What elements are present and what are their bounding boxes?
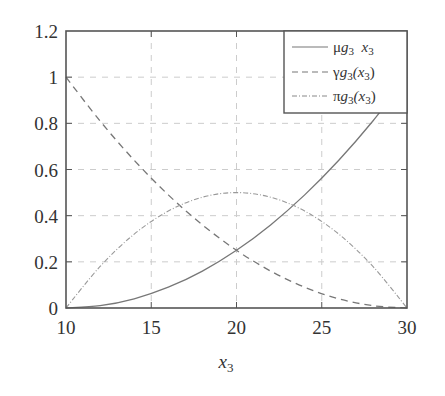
x-tick-label: 15 [142,317,161,338]
y-tick-label: 0.2 [34,252,58,273]
y-tick-label: 1 [49,67,59,88]
x-tick-label: 10 [57,317,76,338]
x-tick-label: 25 [312,317,331,338]
x-tick-label: 30 [398,317,417,338]
x-tick-label: 20 [227,317,246,338]
x-axis-label: x3 [218,351,234,375]
legend-label-mu: μg3 x3 [333,39,374,57]
y-tick-label: 0 [49,298,59,319]
y-tick-label: 1.2 [34,21,58,42]
y-tick-label: 0.8 [34,113,58,134]
y-tick-label: 0.6 [34,160,58,181]
legend: μg3 x3 γg3(x3) πg3(x3) [284,31,407,113]
y-tick-label: 0.4 [34,206,58,227]
chart: 101520253000.20.40.60.811.2 μg3 x3 γg3(x… [0,0,445,396]
